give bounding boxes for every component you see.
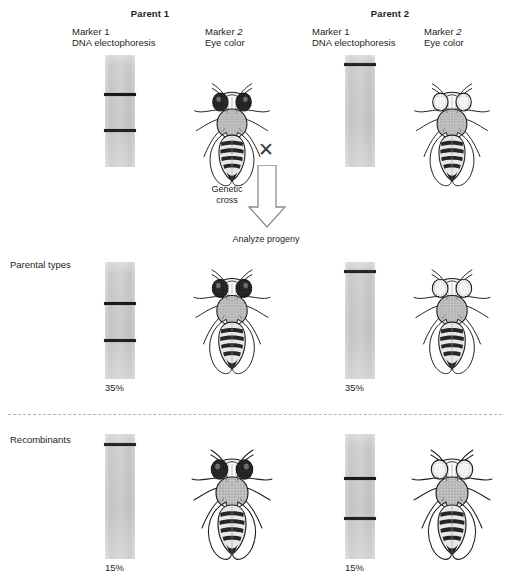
- parent-1-title: Parent 1: [60, 8, 240, 19]
- recombinant-right-percent: 15%: [345, 562, 364, 573]
- gel-band: [104, 302, 136, 305]
- gel-band: [344, 517, 376, 520]
- recombinant-left-gel: [105, 434, 135, 559]
- gel-band: [104, 93, 136, 96]
- parental-left-gel: [105, 262, 135, 379]
- genetic-label-line-2: cross: [207, 195, 247, 206]
- parental-right-percent: 35%: [345, 382, 364, 393]
- parental-right-gel: [345, 262, 375, 379]
- row-label-parental-types: Parental types: [10, 259, 71, 270]
- dna-electrophoresis-label: DNA electophoresis: [312, 37, 395, 48]
- parent-2-marker-2-header: Marker 2 Eye color: [424, 26, 464, 49]
- parental-right-fly: [406, 268, 498, 380]
- recombinant-left-percent: 15%: [105, 562, 124, 573]
- parent-2-gel: [345, 55, 375, 167]
- eye-color-label: Eye color: [205, 37, 245, 48]
- parental-left-fly: [186, 268, 278, 380]
- figure-canvas: Parent 1 Parent 2 Marker 1 DNA electopho…: [0, 0, 510, 587]
- genetic-cross-arrow: [245, 165, 289, 228]
- gel-band: [344, 477, 376, 480]
- marker-1-label: Marker 1: [312, 26, 395, 37]
- parent-2-marker-1-header: Marker 1 DNA electophoresis: [312, 26, 395, 49]
- marker-2-number: 2: [237, 26, 242, 37]
- genetic-cross-label: Genetic cross: [207, 184, 247, 205]
- section-divider: [8, 414, 502, 415]
- gel-band: [344, 63, 376, 66]
- parent-1-marker-1-header: Marker 1 DNA electophoresis: [72, 26, 155, 49]
- recombinant-left-fly: [186, 448, 278, 566]
- marker-2-number: 2: [456, 26, 461, 37]
- gel-band: [104, 129, 136, 132]
- parent-2-title: Parent 2: [300, 8, 480, 19]
- gel-band: [344, 270, 376, 273]
- cross-symbol: ✕: [258, 140, 274, 159]
- parental-left-percent: 35%: [105, 382, 124, 393]
- gel-band: [104, 339, 136, 342]
- dna-electrophoresis-label: DNA electophoresis: [72, 37, 155, 48]
- marker-2-label: Marker 2: [205, 26, 245, 37]
- recombinant-right-fly: [406, 448, 498, 566]
- gel-band: [104, 443, 136, 446]
- recombinant-right-gel: [345, 434, 375, 559]
- eye-color-label: Eye color: [424, 37, 464, 48]
- row-label-recombinants: Recombinants: [10, 434, 71, 445]
- analyze-progeny-label: Analyze progeny: [196, 234, 336, 244]
- marker-2-label: Marker 2: [424, 26, 464, 37]
- parent-2-fly: [406, 82, 498, 192]
- genetic-label-line-1: Genetic: [207, 184, 247, 195]
- parent-1-gel: [105, 55, 135, 167]
- parent-1-marker-2-header: Marker 2 Eye color: [205, 26, 245, 49]
- marker-1-label: Marker 1: [72, 26, 155, 37]
